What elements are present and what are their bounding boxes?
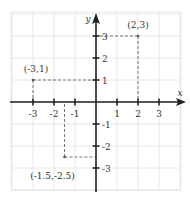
y-tick-label: 1 bbox=[102, 76, 108, 86]
data-point bbox=[137, 35, 140, 38]
y-tick-label: -3 bbox=[102, 164, 111, 174]
point-label: (2,3) bbox=[127, 20, 148, 30]
x-tick-label: -2 bbox=[50, 109, 59, 119]
x-tick-label: 1 bbox=[114, 109, 120, 119]
y-tick-label: -2 bbox=[102, 142, 111, 152]
x-tick-label: 2 bbox=[135, 109, 141, 119]
y-axis-label: y bbox=[84, 14, 91, 24]
data-point bbox=[32, 79, 35, 82]
data-point bbox=[63, 156, 66, 159]
x-tick-label: -1 bbox=[71, 109, 80, 119]
x-tick-label: -3 bbox=[29, 109, 38, 119]
y-tick-label: 3 bbox=[102, 32, 108, 42]
y-tick-label: -1 bbox=[102, 120, 111, 130]
y-tick-label: 2 bbox=[102, 54, 108, 64]
x-tick-label: 3 bbox=[156, 109, 162, 119]
point-label: (-3,1) bbox=[24, 64, 48, 74]
coordinate-plane: xy-3-2-1123321-1-2-3(2,3)(-3,1)(-1.5,-2.… bbox=[0, 0, 190, 199]
x-axis-label: x bbox=[177, 88, 182, 98]
projection-lines bbox=[33, 36, 138, 157]
point-label: (-1.5,-2.5) bbox=[30, 171, 75, 181]
points bbox=[32, 35, 140, 159]
